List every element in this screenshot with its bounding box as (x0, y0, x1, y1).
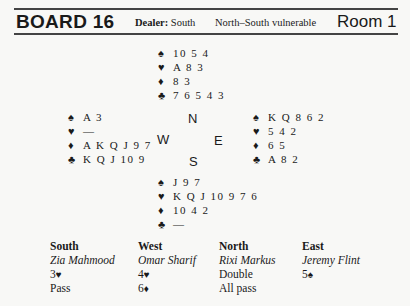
east-hearts-cards: 5 4 2 (268, 125, 298, 137)
player-name: Rixi Markus (219, 253, 304, 267)
club-icon: ♣ (158, 217, 173, 231)
player-name: Omar Sharif (138, 253, 223, 267)
north-hand: ♠10 5 4 ♥A 8 3 ♦8 3 ♣7 6 5 4 3 (158, 46, 225, 102)
north-clubs: ♣7 6 5 4 3 (158, 88, 225, 102)
heart-icon: ♥ (253, 124, 268, 138)
south-clubs: ♣— (158, 217, 258, 231)
south-clubs-cards: — (173, 218, 186, 230)
south-spades: ♠J 9 7 (158, 175, 258, 189)
spade-icon: ♠ (158, 175, 173, 189)
bid: 4♥ (138, 267, 223, 281)
south-spades-cards: J 9 7 (173, 176, 201, 188)
east-clubs-cards: A 8 2 (268, 153, 299, 165)
north-hearts-cards: A 8 3 (173, 61, 204, 73)
heart-icon: ♥ (158, 60, 173, 74)
north-diamonds: ♦8 3 (158, 74, 225, 88)
diamond-icon: ♦ (144, 283, 149, 294)
dealer-value: South (171, 17, 196, 28)
bid: 3♥ (50, 267, 135, 281)
room-label: Room 1 (337, 12, 397, 32)
west-hearts-cards: — (83, 125, 96, 137)
heart-icon: ♥ (68, 124, 83, 138)
bid: 5♠ (302, 267, 387, 281)
seat-heading: West (138, 239, 223, 253)
south-hand: ♠J 9 7 ♥K Q J 10 9 7 6 ♦10 4 2 ♣— (158, 175, 258, 231)
top-rule (14, 8, 398, 10)
board-header: BOARD 16 Dealer: South North–South vulne… (16, 11, 400, 33)
south-hearts-cards: K Q J 10 9 7 6 (173, 190, 258, 202)
compass-south: S (189, 155, 198, 169)
club-icon: ♣ (253, 152, 268, 166)
auction-col-west: West Omar Sharif 4♥ 6♦ (138, 239, 223, 295)
west-diamonds-cards: A K Q J 9 7 (83, 139, 152, 151)
player-name: Zia Mahmood (50, 253, 135, 267)
north-clubs-cards: 7 6 5 4 3 (173, 89, 225, 101)
bid: All pass (219, 281, 304, 295)
seat-heading: North (219, 239, 304, 253)
east-spades-cards: K Q 8 6 2 (268, 111, 325, 123)
bid: Pass (50, 281, 135, 295)
spade-icon: ♠ (308, 269, 313, 280)
board-title: BOARD 16 (16, 11, 114, 33)
south-diamonds-cards: 10 4 2 (173, 204, 210, 216)
auction-col-north: North Rixi Markus Double All pass (219, 239, 304, 295)
spade-icon: ♠ (68, 110, 83, 124)
heart-icon: ♥ (144, 269, 150, 280)
bid-level: Double (219, 268, 253, 280)
compass-east: E (214, 134, 223, 148)
east-clubs: ♣A 8 2 (253, 152, 325, 166)
heart-icon: ♥ (158, 189, 173, 203)
seat-heading: South (50, 239, 135, 253)
north-hearts: ♥A 8 3 (158, 60, 225, 74)
diamond-icon: ♦ (158, 74, 173, 88)
west-spades-cards: A 3 (83, 111, 103, 123)
west-diamonds: ♦A K Q J 9 7 (68, 138, 152, 152)
east-diamonds-cards: 6 5 (268, 139, 286, 151)
diamond-icon: ♦ (158, 203, 173, 217)
dealer-label: Dealer: (135, 17, 168, 28)
vulnerability: North–South vulnerable (215, 16, 316, 30)
west-hearts: ♥— (68, 124, 152, 138)
south-diamonds: ♦10 4 2 (158, 203, 258, 217)
bid: 6♦ (138, 281, 223, 295)
club-icon: ♣ (158, 88, 173, 102)
auction-col-south: South Zia Mahmood 3♥ Pass (50, 239, 135, 295)
north-spades: ♠10 5 4 (158, 46, 225, 60)
east-diamonds: ♦6 5 (253, 138, 325, 152)
player-name: Jeremy Flint (302, 253, 387, 267)
spade-icon: ♠ (158, 46, 173, 60)
south-hearts: ♥K Q J 10 9 7 6 (158, 189, 258, 203)
bid: Double (219, 267, 304, 281)
east-hearts: ♥5 4 2 (253, 124, 325, 138)
heart-icon: ♥ (56, 269, 62, 280)
club-icon: ♣ (68, 152, 83, 166)
seat-heading: East (302, 239, 387, 253)
auction-col-east: East Jeremy Flint 5♠ (302, 239, 387, 281)
diamond-icon: ♦ (253, 138, 268, 152)
west-hand: ♠A 3 ♥— ♦A K Q J 9 7 ♣K Q J 10 9 (68, 110, 152, 166)
bottom-rule (14, 33, 398, 35)
compass-north: N (188, 112, 197, 126)
diamond-icon: ♦ (68, 138, 83, 152)
spade-icon: ♠ (253, 110, 268, 124)
west-clubs: ♣K Q J 10 9 (68, 152, 152, 166)
east-spades: ♠K Q 8 6 2 (253, 110, 325, 124)
bid-level: Pass (50, 282, 70, 294)
north-diamonds-cards: 8 3 (173, 75, 191, 87)
compass-west: W (157, 133, 169, 147)
east-hand: ♠K Q 8 6 2 ♥5 4 2 ♦6 5 ♣A 8 2 (253, 110, 325, 166)
west-spades: ♠A 3 (68, 110, 152, 124)
bid-level: All pass (219, 282, 256, 294)
dealer-info: Dealer: South (135, 16, 195, 30)
north-spades-cards: 10 5 4 (173, 47, 210, 59)
west-clubs-cards: K Q J 10 9 (83, 153, 146, 165)
